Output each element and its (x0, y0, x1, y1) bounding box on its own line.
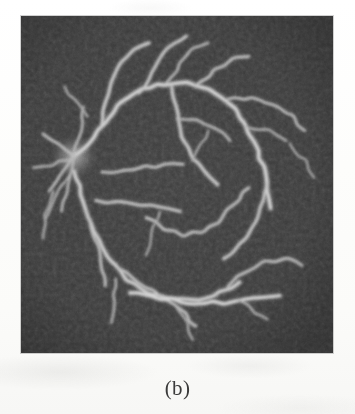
image-vignette (21, 16, 333, 353)
figure-caption: (b) (0, 376, 355, 400)
retinal-vessel-image (21, 16, 333, 353)
scanned-page-background: (b) (0, 0, 355, 414)
vessel-map-svg (21, 16, 333, 353)
